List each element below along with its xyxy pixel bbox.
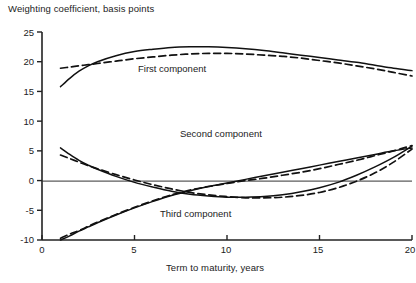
x-tick-label-0: 0 xyxy=(29,244,55,255)
x-tick-label-15: 15 xyxy=(305,244,331,255)
y-tick-label-0: 0 xyxy=(8,175,34,186)
y-tick-label-5: 5 xyxy=(8,145,34,156)
y-tick-label--5: -5 xyxy=(8,205,34,216)
y-tick-label-25: 25 xyxy=(8,27,34,38)
x-tick-label-10: 10 xyxy=(213,244,239,255)
y-axis-title: Weighting coefficient, basis points xyxy=(8,3,154,14)
y-tick-label-15: 15 xyxy=(8,86,34,97)
annotation-second-component: Second component xyxy=(180,128,262,139)
series-third-component-fitted xyxy=(61,146,413,239)
series-layer xyxy=(61,47,413,240)
series-third-component xyxy=(61,148,413,240)
plot-canvas xyxy=(0,0,416,283)
annotation-third-component: Third component xyxy=(160,208,231,219)
x-axis-title: Term to maturity, years xyxy=(166,262,264,273)
y-tick-label-20: 20 xyxy=(8,56,34,67)
annotation-first-component: First component xyxy=(138,63,206,74)
chart-figure: Weighting coefficient, basis points Term… xyxy=(0,0,416,283)
x-tick-label-20: 20 xyxy=(397,244,416,255)
y-tick-label-10: 10 xyxy=(8,116,34,127)
x-tick-label-5: 5 xyxy=(121,244,147,255)
series-second-component xyxy=(61,146,413,197)
